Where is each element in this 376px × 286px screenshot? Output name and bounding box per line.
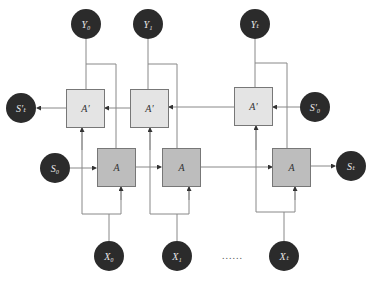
output-node-yt: Yₜ <box>240 9 270 39</box>
ellipsis: ...... <box>222 250 243 261</box>
forward-cell-1: A <box>162 148 201 187</box>
backward-cell-t: A′ <box>234 87 273 126</box>
input-node-xt: Xₜ <box>269 241 299 271</box>
output-node-y1: Y₁ <box>133 9 163 39</box>
connections <box>0 0 376 286</box>
state-node-s0-prime: S′₀ <box>300 92 330 122</box>
forward-cell-t: A <box>272 148 311 187</box>
backward-cell-0: A′ <box>66 89 105 128</box>
input-node-x0: X₀ <box>94 241 124 271</box>
state-node-st: Sₜ <box>336 151 366 181</box>
backward-cell-1: A′ <box>130 89 169 128</box>
forward-cell-0: A <box>97 148 136 187</box>
output-node-y0: Y₀ <box>71 9 101 39</box>
input-node-x1: X₁ <box>162 241 192 271</box>
state-node-st-prime: S′ₜ <box>6 93 36 123</box>
bidirectional-rnn-diagram: Y₀ Y₁ Yₜ A′ A′ A′ A A A S′ₜ S′₀ S₀ Sₜ X₀… <box>0 0 376 286</box>
state-node-s0: S₀ <box>40 153 70 183</box>
